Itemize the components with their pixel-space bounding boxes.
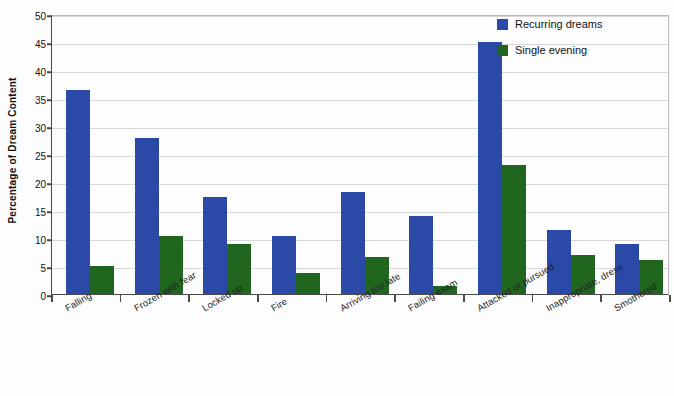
y-tick-label: 20 xyxy=(35,179,46,190)
bar-single-evening[interactable] xyxy=(90,266,114,294)
bar-recurring-dreams[interactable] xyxy=(341,192,365,294)
x-tick-mark xyxy=(120,295,122,302)
bar-group xyxy=(258,16,327,294)
legend-label: Recurring dreams xyxy=(515,18,602,30)
bar-recurring-dreams[interactable] xyxy=(409,216,433,294)
y-tick-label: 50 xyxy=(35,11,46,22)
y-tick-label: 15 xyxy=(35,207,46,218)
y-axis-title-text: Percentage of Dream Content xyxy=(7,77,18,223)
y-tick-label: 0 xyxy=(40,291,46,302)
bar-group xyxy=(189,16,258,294)
bar-chart: Percentage of Dream Content 051015202530… xyxy=(0,0,674,396)
bar-group xyxy=(52,16,121,294)
x-tick-mark xyxy=(532,295,534,302)
y-tick-label: 35 xyxy=(35,95,46,106)
y-tick-label: 10 xyxy=(35,235,46,246)
y-axis-title: Percentage of Dream Content xyxy=(0,0,24,300)
bar-recurring-dreams[interactable] xyxy=(203,197,227,294)
x-tick-mark xyxy=(257,295,259,302)
y-tick-label: 45 xyxy=(35,39,46,50)
x-tick-mark xyxy=(326,295,328,302)
legend-item[interactable]: Recurring dreams xyxy=(497,18,647,30)
bar-group xyxy=(121,16,190,294)
bar-recurring-dreams[interactable] xyxy=(66,90,90,294)
bar-single-evening[interactable] xyxy=(502,165,526,294)
bar-group xyxy=(327,16,396,294)
x-tick-mark xyxy=(463,295,465,302)
chart-legend: Recurring dreamsSingle evening xyxy=(497,18,647,70)
bar-recurring-dreams[interactable] xyxy=(478,42,502,294)
bar-single-evening[interactable] xyxy=(296,273,320,294)
legend-swatch-single xyxy=(497,45,508,56)
legend-item[interactable]: Single evening xyxy=(497,44,647,56)
x-tick-mark xyxy=(669,295,671,302)
x-tick-label: Fire xyxy=(269,296,289,314)
bar-recurring-dreams[interactable] xyxy=(272,236,296,294)
y-tick-label: 25 xyxy=(35,151,46,162)
bar-recurring-dreams[interactable] xyxy=(135,138,159,294)
x-tick-mark xyxy=(51,295,53,302)
x-tick-mark xyxy=(394,295,396,302)
bar-group xyxy=(395,16,464,294)
y-tick-label: 30 xyxy=(35,123,46,134)
x-tick-mark xyxy=(188,295,190,302)
x-tick-mark xyxy=(600,295,602,302)
legend-label: Single evening xyxy=(515,44,587,56)
y-tick-label: 5 xyxy=(40,263,46,274)
legend-swatch-recurring xyxy=(497,19,508,30)
y-tick-label: 40 xyxy=(35,67,46,78)
